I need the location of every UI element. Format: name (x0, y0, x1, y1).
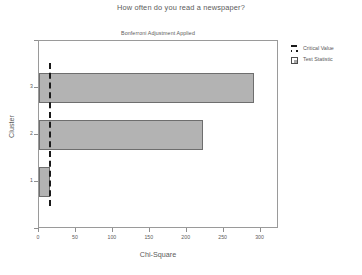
x-tick-mark (186, 228, 187, 232)
chart-legend: Critical Value Test Statistic (289, 44, 361, 66)
y-tick-mark (34, 181, 38, 182)
chi-square-bar-chart: How often do you read a newspaper? Bonfe… (0, 0, 362, 275)
plot-inner (39, 41, 277, 227)
dashed-line-key-icon (289, 44, 300, 54)
x-tick-label: 200 (174, 234, 198, 240)
bar-cluster-3 (39, 73, 254, 102)
bar-cluster-2 (39, 120, 203, 149)
legend-item-test-statistic: Test Statistic (289, 55, 361, 66)
y-tick-mark (34, 87, 38, 88)
chart-subtitle: Bonferroni Adjustment Applied (38, 30, 278, 36)
square-swatch-key-icon (289, 55, 300, 65)
x-tick-mark (149, 228, 150, 232)
x-tick-mark (38, 228, 39, 232)
legend-label-test-statistic: Test Statistic (303, 56, 333, 62)
x-tick-mark (75, 228, 76, 232)
x-tick-label: 0 (26, 234, 50, 240)
x-tick-label: 50 (63, 234, 87, 240)
y-tick-label: 1 (13, 177, 33, 183)
y-tick-label: 2 (13, 130, 33, 136)
x-tick-mark (112, 228, 113, 232)
x-tick-label: 100 (100, 234, 124, 240)
y-tick-mark (34, 40, 38, 41)
x-tick-label: 250 (211, 234, 235, 240)
critical-value-line (49, 63, 51, 206)
legend-label-critical-value: Critical Value (303, 45, 334, 51)
plot-area (38, 40, 278, 228)
bar-cluster-1 (39, 167, 50, 196)
x-tick-mark (260, 228, 261, 232)
x-tick-label: 300 (248, 234, 272, 240)
x-axis-title: Chi-Square (38, 250, 278, 259)
y-tick-label: 3 (13, 83, 33, 89)
legend-item-critical-value: Critical Value (289, 44, 361, 55)
x-tick-label: 150 (137, 234, 161, 240)
x-tick-mark (223, 228, 224, 232)
y-tick-mark (34, 228, 38, 229)
y-axis-title: Cluster (7, 97, 16, 157)
chart-title: How often do you read a newspaper? (0, 3, 362, 12)
y-tick-mark (34, 134, 38, 135)
